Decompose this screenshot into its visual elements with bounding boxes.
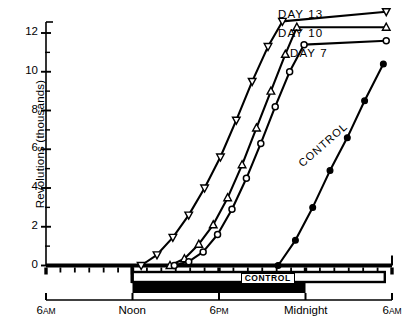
data-point-marker [215, 232, 221, 238]
series-line-day-10 [170, 27, 386, 265]
y-tick-label: 4 [16, 180, 38, 192]
data-point-marker [229, 206, 235, 212]
x-tick-label: Noon [119, 304, 147, 316]
data-point-marker [383, 38, 389, 44]
data-point-marker [224, 194, 232, 201]
data-point-marker [275, 263, 281, 269]
data-point-marker [380, 61, 386, 67]
data-point-marker [293, 237, 299, 243]
series-label-day-10: DAY 10 [278, 27, 323, 39]
y-tick-label: 6 [16, 141, 38, 153]
data-point-marker [238, 161, 246, 168]
data-point-marker [171, 263, 177, 269]
data-point-marker [200, 249, 206, 255]
data-point-marker [186, 259, 192, 265]
data-point-marker [362, 98, 368, 104]
data-point-marker [137, 263, 145, 270]
y-tick-label: 8 [16, 103, 38, 115]
y-tick-label: 2 [16, 219, 38, 231]
data-point-marker [382, 9, 390, 16]
x-tick-label: Midnight [284, 304, 327, 316]
data-point-marker [243, 175, 249, 181]
data-point-marker [272, 104, 278, 110]
control-bar-label: CONTROL [241, 273, 295, 284]
dark-period-leader [131, 267, 134, 284]
series-line-day-7 [174, 41, 386, 266]
data-point-marker [382, 23, 390, 30]
data-point-marker [282, 50, 290, 57]
chart-figure: Revolutions (thousands) 024681012 6AMNoo… [0, 0, 406, 333]
x-tick-label: 6PM [210, 304, 229, 316]
data-point-marker [327, 168, 333, 174]
data-point-marker [258, 140, 264, 146]
data-point-marker [248, 78, 256, 85]
data-point-marker [264, 44, 272, 51]
data-point-marker [233, 117, 241, 124]
series-label-day-13: DAY 13 [278, 8, 323, 20]
y-tick-label: 12 [16, 25, 38, 37]
x-tick-label: 6AM [383, 304, 402, 316]
series-label-day-7: DAY 7 [290, 47, 328, 59]
x-tick-label: 6AM [37, 304, 56, 316]
data-point-marker [287, 69, 293, 75]
data-point-marker [267, 87, 275, 94]
data-point-marker [310, 204, 316, 210]
data-point-marker [344, 135, 350, 141]
y-tick-label: 10 [16, 64, 38, 76]
data-point-marker [253, 124, 261, 131]
chart-canvas [0, 0, 406, 333]
y-tick-label: 0 [16, 258, 38, 270]
series-line-control [278, 64, 383, 266]
